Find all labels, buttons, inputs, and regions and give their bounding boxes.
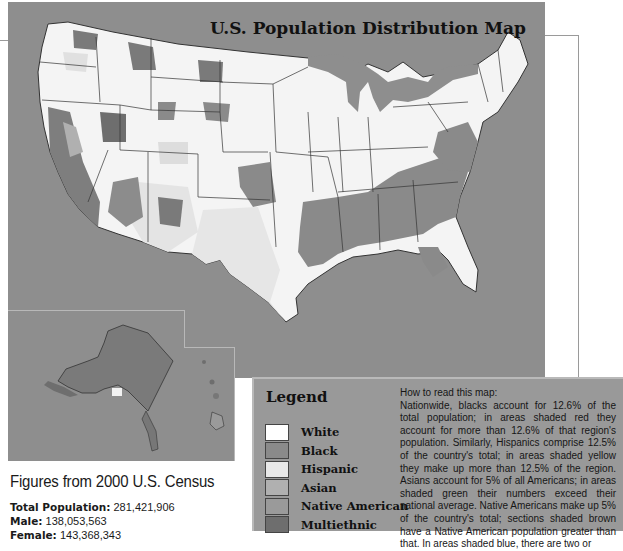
legend-label: White bbox=[301, 425, 339, 439]
legend-item-multiethnic: Multiethnic bbox=[265, 516, 408, 535]
frame-line-right-vertical bbox=[578, 35, 579, 377]
legend-label: Native American bbox=[301, 499, 408, 513]
legend-label: Hispanic bbox=[301, 462, 358, 476]
region-native-nevada bbox=[100, 112, 126, 142]
alaska-map bbox=[8, 311, 184, 461]
frame-line-left-top bbox=[0, 40, 8, 41]
legend-item-asian: Asian bbox=[265, 479, 408, 498]
legend-label: Multiethnic bbox=[301, 518, 377, 532]
legend-label: Black bbox=[301, 444, 338, 458]
legend-swatch bbox=[265, 479, 289, 496]
how-to-read-text: How to read this map: Nationwide, blacks… bbox=[400, 387, 616, 551]
map-title: U.S. Population Distribution Map bbox=[210, 18, 526, 38]
census-row-total: Total Population: 281,421,906 bbox=[10, 500, 242, 514]
legend-swatch bbox=[265, 461, 289, 478]
legend-list: White Black Hispanic Asian Native Americ… bbox=[265, 423, 408, 534]
region-native-nm bbox=[158, 197, 183, 227]
hawaii-inset bbox=[184, 347, 235, 461]
legend-label: Asian bbox=[301, 481, 337, 495]
census-label: Male: bbox=[10, 515, 42, 527]
legend-swatch bbox=[265, 516, 289, 533]
region-native-wyoming bbox=[158, 102, 176, 120]
legend-item-white: White bbox=[265, 423, 408, 442]
alaska-shape bbox=[58, 325, 173, 411]
alaska-white-area bbox=[112, 388, 122, 396]
legend-title: Legend bbox=[266, 388, 328, 406]
legend-item-hispanic: Hispanic bbox=[265, 460, 408, 479]
region-native-dakota bbox=[198, 60, 223, 82]
census-row-female: Female: 143,368,343 bbox=[10, 528, 242, 542]
census-figures: Figures from 2000 U.S. Census Total Popu… bbox=[10, 472, 242, 542]
census-value: 138,053,563 bbox=[46, 515, 107, 527]
census-value: 143,368,343 bbox=[60, 529, 121, 541]
alaska-inset bbox=[8, 310, 185, 461]
alaska-panhandle bbox=[142, 411, 158, 451]
census-title: Figures from 2000 U.S. Census bbox=[10, 472, 214, 492]
census-label: Total Population: bbox=[10, 501, 110, 513]
hawaii-big-island bbox=[210, 412, 224, 430]
legend-item-native-american: Native American bbox=[265, 497, 408, 516]
legend-panel: Legend White Black Hispanic Asian Native… bbox=[252, 377, 623, 531]
legend-swatch bbox=[265, 498, 289, 515]
census-label: Female: bbox=[10, 529, 57, 541]
how-to-read-body: Nationwide, blacks account for 12.6% of … bbox=[400, 400, 616, 551]
region-hispanic-washington bbox=[63, 52, 88, 72]
legend-swatch bbox=[265, 424, 289, 441]
how-to-read-heading: How to read this map: bbox=[400, 387, 616, 400]
census-value: 281,421,906 bbox=[114, 501, 175, 513]
frame-line-right-top bbox=[545, 35, 579, 36]
legend-swatch bbox=[265, 442, 289, 459]
legend-item-black: Black bbox=[265, 442, 408, 461]
census-row-male: Male: 138,053,563 bbox=[10, 514, 242, 528]
hawaii-map bbox=[184, 348, 234, 461]
